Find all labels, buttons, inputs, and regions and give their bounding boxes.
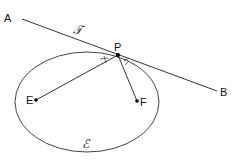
- ellipse-diagram: A B P E F 𝒯 ℰ: [0, 0, 237, 168]
- label-ellipse: ℰ: [82, 137, 91, 151]
- focus-f-dot: [135, 99, 139, 103]
- label-a: A: [4, 12, 12, 24]
- segment-pf: [118, 55, 137, 101]
- angle-mark-left: [100, 56, 108, 63]
- label-f: F: [140, 96, 147, 108]
- label-e: E: [26, 94, 33, 106]
- focus-e-dot: [34, 98, 38, 102]
- label-tangent: 𝒯: [73, 23, 86, 37]
- label-p: P: [114, 41, 121, 53]
- point-p-dot: [116, 53, 120, 57]
- label-b: B: [220, 86, 227, 98]
